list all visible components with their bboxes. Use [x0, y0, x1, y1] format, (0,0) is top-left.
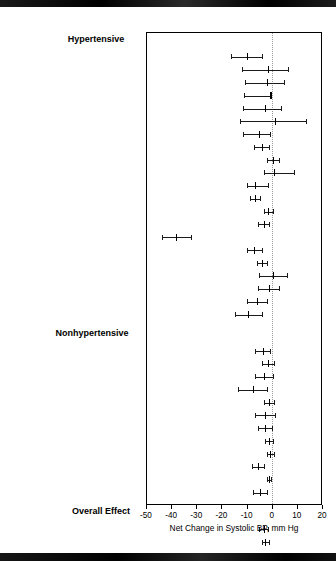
x-axis-tick: [221, 505, 222, 509]
ci-lower-cap: [162, 235, 163, 240]
ci-lower-cap: [258, 286, 259, 291]
section-heading-nonhypertensive: Nonhypertensive: [55, 329, 128, 338]
zero-reference-line: [272, 33, 273, 506]
x-axis-tick-label: -40: [157, 511, 185, 520]
point-estimate-marker: [265, 425, 266, 432]
ci-upper-cap: [284, 80, 285, 85]
x-axis-tick: [196, 505, 197, 509]
ci-lower-cap: [231, 54, 232, 59]
ci-lower-cap: [259, 273, 260, 278]
ci-lower-cap: [245, 80, 246, 85]
point-estimate-marker: [265, 539, 266, 546]
ci-lower-cap: [264, 170, 265, 175]
ci-upper-cap: [260, 196, 261, 201]
ci-upper-cap: [273, 439, 274, 444]
x-axis-tick-label: -10: [233, 511, 261, 520]
ci-upper-cap: [269, 540, 270, 545]
point-estimate-marker: [268, 360, 269, 367]
point-estimate-marker: [268, 66, 269, 73]
ci-lower-cap: [264, 209, 265, 214]
ci-lower-cap: [250, 196, 251, 201]
point-estimate-marker: [265, 105, 266, 112]
x-axis-tick-label: 0: [258, 511, 286, 520]
confidence-interval-line: [245, 83, 284, 84]
ci-upper-cap: [264, 464, 265, 469]
point-estimate-marker: [274, 169, 275, 176]
x-axis-tick-label: 20: [308, 511, 336, 520]
ci-lower-cap: [264, 400, 265, 405]
point-estimate-marker: [262, 144, 263, 151]
ci-upper-cap: [279, 286, 280, 291]
point-estimate-marker: [255, 195, 256, 202]
ci-lower-cap: [255, 349, 256, 354]
point-estimate-marker: [269, 285, 270, 292]
x-axis-tick-label: -30: [182, 511, 210, 520]
ci-lower-cap: [258, 426, 259, 431]
ci-lower-cap: [247, 248, 248, 253]
point-estimate-marker: [275, 118, 276, 125]
x-axis-tick: [297, 505, 298, 509]
ci-lower-cap: [247, 299, 248, 304]
ci-lower-cap: [262, 361, 263, 366]
ci-lower-cap: [243, 132, 244, 137]
ci-upper-cap: [274, 361, 275, 366]
ci-upper-cap: [267, 261, 268, 266]
ci-lower-cap: [254, 145, 255, 150]
point-estimate-marker: [255, 182, 256, 189]
ci-upper-cap: [271, 477, 272, 482]
ci-lower-cap: [267, 452, 268, 457]
point-estimate-marker: [260, 489, 261, 496]
x-axis-tick: [272, 505, 273, 509]
point-estimate-marker: [264, 373, 265, 380]
confidence-interval-line: [243, 109, 281, 110]
ci-upper-cap: [267, 490, 268, 495]
ci-upper-cap: [272, 426, 273, 431]
x-axis-tick: [171, 505, 172, 509]
point-estimate-marker: [269, 476, 270, 483]
ci-lower-cap: [267, 477, 268, 482]
ci-lower-cap: [265, 439, 266, 444]
point-estimate-marker: [254, 247, 255, 254]
x-axis-tick-label: -20: [207, 511, 235, 520]
point-estimate-marker: [263, 348, 264, 355]
x-axis-tick: [146, 505, 147, 509]
point-estimate-marker: [270, 92, 272, 99]
point-estimate-marker: [259, 131, 260, 138]
ci-upper-cap: [274, 400, 275, 405]
point-estimate-marker: [258, 463, 259, 470]
ci-lower-cap: [242, 67, 243, 72]
point-estimate-marker: [264, 221, 265, 228]
ci-lower-cap: [253, 490, 254, 495]
point-estimate-marker: [269, 399, 270, 406]
point-estimate-marker: [267, 79, 268, 86]
ci-upper-cap: [287, 273, 288, 278]
x-axis-tick: [322, 505, 323, 509]
ci-lower-cap: [252, 464, 253, 469]
x-axis-tick-label: 10: [283, 511, 311, 520]
section-heading-hypertensive: Hypertensive: [68, 35, 125, 44]
ci-upper-cap: [262, 248, 263, 253]
confidence-interval-line: [242, 70, 289, 71]
ci-lower-cap: [267, 158, 268, 163]
ci-upper-cap: [274, 452, 275, 457]
ci-upper-cap: [270, 132, 271, 137]
ci-upper-cap: [273, 374, 274, 379]
point-estimate-marker: [247, 53, 248, 60]
confidence-interval-line: [247, 186, 268, 187]
ci-upper-cap: [288, 67, 289, 72]
ci-upper-cap: [270, 349, 271, 354]
confidence-interval-line: [264, 173, 294, 174]
ci-lower-cap: [238, 387, 239, 392]
ci-upper-cap: [279, 158, 280, 163]
ci-lower-cap: [244, 93, 245, 98]
scan-artifact-bottom: [0, 553, 336, 561]
forest-plot-frame: [146, 32, 322, 505]
point-estimate-marker: [270, 451, 271, 458]
confidence-interval-line: [244, 96, 270, 97]
confidence-interval-line: [240, 121, 305, 122]
ci-upper-cap: [269, 222, 270, 227]
point-estimate-marker: [253, 386, 254, 393]
section-heading-overall-effect: Overall Effect: [72, 507, 130, 516]
ci-upper-cap: [306, 119, 307, 124]
ci-upper-cap: [273, 209, 274, 214]
